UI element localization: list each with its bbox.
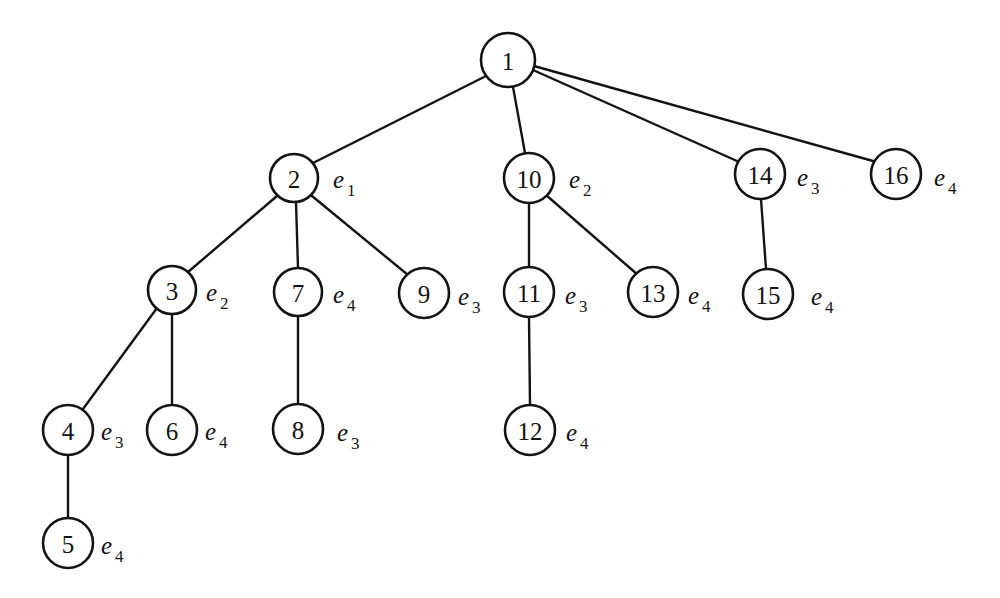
edge-3-4 <box>83 308 157 409</box>
node-label-6: 6 <box>166 418 179 445</box>
node-label-12: 12 <box>518 418 543 445</box>
edge-tag-sub-16: 4 <box>948 179 957 198</box>
node-6[interactable]: 6 <box>147 405 197 455</box>
node-label-5: 5 <box>62 531 75 558</box>
edge-tag-base-2: e <box>333 166 344 193</box>
edge-tag-base-5: e <box>101 532 112 559</box>
edge-tag-base-13: e <box>688 282 699 309</box>
edge-2-7 <box>296 202 298 268</box>
edge-tag-4: e3 <box>101 418 124 452</box>
edge-tag-base-8: e <box>337 419 348 446</box>
edge-tag-6: e4 <box>205 418 228 452</box>
node-label-9: 9 <box>418 281 431 308</box>
edge-tag-base-7: e <box>333 281 344 308</box>
node-13[interactable]: 13 <box>628 267 678 317</box>
edge-tag-2: e1 <box>333 166 356 200</box>
edge-tag-sub-7: 4 <box>347 296 356 315</box>
edge-tag-12: e4 <box>566 419 589 453</box>
node-4[interactable]: 4 <box>43 405 93 455</box>
edge-tag-sub-13: 4 <box>702 297 711 316</box>
node-5[interactable]: 5 <box>43 518 93 568</box>
edge-tag-8: e3 <box>337 419 360 453</box>
node-label-16: 16 <box>884 162 909 189</box>
edge-tag-sub-12: 4 <box>580 434 589 453</box>
node-label-10: 10 <box>517 166 542 193</box>
edge-11-12 <box>529 317 530 405</box>
edge-tag-base-16: e <box>934 164 945 191</box>
edge-tag-sub-3: 2 <box>220 294 229 313</box>
edge-tag-sub-4: 3 <box>115 433 124 452</box>
node-8[interactable]: 8 <box>273 404 323 454</box>
node-2[interactable]: 2 <box>270 154 318 202</box>
edge-tag-base-6: e <box>205 418 216 445</box>
edge-tag-16: e4 <box>934 164 957 198</box>
edge-tag-base-10: e <box>569 166 580 193</box>
node-label-15: 15 <box>756 282 781 309</box>
edge-tag-base-11: e <box>565 282 576 309</box>
diagram-canvas: 12101416379111315468125 e1e2e3e4e2e4e3e3… <box>0 0 1000 598</box>
edge-tag-sub-8: 3 <box>351 434 360 453</box>
edge-tag-sub-14: 3 <box>811 179 820 198</box>
edge-tag-sub-2: 1 <box>347 181 356 200</box>
edge-tag-sub-11: 3 <box>579 297 588 316</box>
node-label-4: 4 <box>62 418 75 445</box>
edge-tag-9: e3 <box>458 283 481 317</box>
node-label-13: 13 <box>641 280 666 307</box>
edge-tag-5: e4 <box>101 532 124 566</box>
edge-tag-3: e2 <box>206 279 229 313</box>
node-9[interactable]: 9 <box>399 268 449 318</box>
node-10[interactable]: 10 <box>504 153 554 203</box>
edge-2-9 <box>312 196 408 275</box>
node-14[interactable]: 14 <box>735 149 785 199</box>
edge-tag-sub-5: 4 <box>115 547 124 566</box>
edge-tag-sub-15: 4 <box>825 298 834 317</box>
edge-tag-base-12: e <box>566 419 577 446</box>
node-label-2: 2 <box>288 166 301 193</box>
edge-1-2 <box>313 76 486 163</box>
edge-tag-base-14: e <box>797 164 808 191</box>
node-label-14: 14 <box>748 162 774 189</box>
edge-tag-14: e3 <box>797 164 820 198</box>
node-label-7: 7 <box>292 280 305 307</box>
edge-tag-10: e2 <box>569 166 592 200</box>
edge-tag-7: e4 <box>333 281 356 315</box>
node-label-11: 11 <box>517 280 541 307</box>
edge-2-3 <box>188 196 277 272</box>
node-label-1: 1 <box>502 48 515 75</box>
edge-tag-11: e3 <box>565 282 588 316</box>
node-15[interactable]: 15 <box>743 269 793 319</box>
edge-tag-sub-6: 4 <box>219 433 228 452</box>
node-3[interactable]: 3 <box>148 266 196 314</box>
node-label-3: 3 <box>166 278 179 305</box>
node-1[interactable]: 1 <box>481 33 535 87</box>
edge-tag-sub-10: 2 <box>583 181 592 200</box>
node-12[interactable]: 12 <box>505 405 555 455</box>
edge-1-10 <box>513 87 525 153</box>
edge-tag-13: e4 <box>688 282 711 316</box>
edge-10-13 <box>546 195 638 275</box>
tree-diagram: 12101416379111315468125 e1e2e3e4e2e4e3e3… <box>0 0 1000 598</box>
edge-tag-sub-9: 3 <box>472 298 481 317</box>
edge-tag-base-9: e <box>458 283 469 310</box>
edge-14-15 <box>761 199 766 269</box>
nodes-group: 12101416379111315468125 <box>43 33 921 568</box>
node-7[interactable]: 7 <box>274 268 322 316</box>
edge-tag-base-15: e <box>811 283 822 310</box>
node-16[interactable]: 16 <box>871 149 921 199</box>
edge-tag-base-4: e <box>101 418 112 445</box>
edge-tag-base-3: e <box>206 279 217 306</box>
node-11[interactable]: 11 <box>504 267 554 317</box>
edge-tag-15: e4 <box>811 283 834 317</box>
node-label-8: 8 <box>292 417 305 444</box>
